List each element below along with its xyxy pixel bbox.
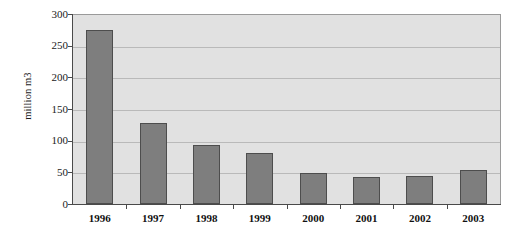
gridline (73, 142, 500, 143)
y-axis-tick-mark (68, 14, 73, 15)
x-axis-category-label: 1997 (126, 212, 180, 225)
x-axis-tick-mark (393, 205, 394, 209)
y-axis-tick-label: 100 (28, 135, 68, 146)
y-axis-tick-mark (68, 172, 73, 173)
y-axis-tick-label: 150 (28, 104, 68, 115)
y-axis-tick-mark (68, 141, 73, 142)
y-axis-tick-label: 250 (28, 40, 68, 51)
x-axis-tick-mark (287, 205, 288, 209)
bar-chart: million m3 050100150200250300 1996199719… (0, 0, 531, 240)
x-axis-tick-mark (233, 205, 234, 209)
bar (140, 123, 167, 204)
x-axis-category-label: 2003 (446, 212, 500, 225)
bar (193, 145, 220, 204)
bar (353, 177, 380, 204)
x-axis-tick-mark (126, 205, 127, 209)
bar (300, 173, 327, 204)
bar (246, 153, 273, 204)
bar (406, 176, 433, 205)
bar (86, 30, 113, 204)
y-axis-tick-label: 0 (28, 199, 68, 210)
x-axis-tick-mark (180, 205, 181, 209)
y-axis-tick-labels: 050100150200250300 (28, 0, 68, 240)
y-axis-tick-mark (68, 77, 73, 78)
x-axis-category-label: 2000 (286, 212, 340, 225)
y-axis-tick-label: 200 (28, 72, 68, 83)
bar (460, 170, 487, 204)
y-axis-tick-label: 50 (28, 167, 68, 178)
y-axis-tick-label: 300 (28, 9, 68, 20)
y-axis-tick-mark (68, 46, 73, 47)
x-axis-category-label: 1996 (73, 212, 127, 225)
gridline (73, 173, 500, 174)
x-axis-category-label: 2001 (340, 212, 394, 225)
y-axis-tick-mark (68, 204, 73, 205)
gridline (73, 110, 500, 111)
x-axis-tick-mark (340, 205, 341, 209)
x-axis-tick-mark (447, 205, 448, 209)
plot-area (73, 14, 501, 205)
y-axis-tick-mark (68, 109, 73, 110)
gridline (73, 47, 500, 48)
gridline (73, 78, 500, 79)
x-axis-category-label: 1998 (179, 212, 233, 225)
x-axis-category-label: 1999 (233, 212, 287, 225)
x-axis-category-label: 2002 (393, 212, 447, 225)
